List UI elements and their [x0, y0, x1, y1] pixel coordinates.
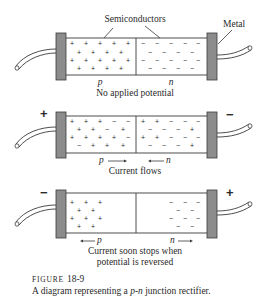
svg-text:−: −: [196, 134, 200, 141]
svg-text:−: −: [169, 199, 173, 206]
svg-text:−: −: [196, 215, 200, 222]
svg-text:+: +: [121, 142, 125, 149]
p-label: p: [97, 236, 102, 246]
svg-text:+: +: [98, 199, 102, 206]
left-wire: [15, 49, 56, 70]
svg-text:−: −: [196, 118, 200, 125]
svg-text:−: −: [77, 142, 81, 149]
svg-text:+: +: [105, 142, 109, 149]
svg-text:+: +: [77, 126, 81, 133]
svg-text:−: −: [176, 126, 180, 133]
svg-text:−: −: [162, 126, 166, 133]
svg-text:+: +: [190, 126, 194, 133]
svg-text:+: +: [70, 57, 74, 64]
svg-text:+: +: [84, 57, 88, 64]
panel-reverse-bias: +++ ++ +++ ++ −−− −− −−− −−: [15, 190, 252, 243]
semiconductors-label: Semiconductors: [104, 15, 165, 25]
svg-text:+: +: [190, 142, 194, 149]
metal-label: Metal: [223, 20, 245, 30]
svg-text:−: −: [183, 199, 187, 206]
svg-text:−: −: [169, 215, 173, 222]
figure-prefix: FIGURE: [32, 275, 64, 284]
svg-text:−: −: [169, 57, 173, 64]
svg-text:+: +: [91, 49, 95, 56]
svg-text:+: +: [141, 134, 145, 141]
svg-text:−: −: [196, 199, 200, 206]
svg-text:−: −: [176, 223, 180, 230]
svg-text:−: −: [169, 134, 173, 141]
svg-text:−: −: [105, 126, 109, 133]
figure-caption: A diagram representing a p-n junction re…: [32, 286, 211, 296]
svg-text:−: −: [183, 118, 187, 125]
svg-text:−: −: [169, 118, 173, 125]
right-metal-contact: [207, 33, 217, 80]
svg-text:+: +: [112, 57, 116, 64]
svg-text:+: +: [98, 118, 102, 125]
svg-text:+: +: [121, 126, 125, 133]
svg-text:+: +: [91, 65, 95, 72]
svg-text:−: −: [183, 40, 187, 47]
svg-text:+: +: [119, 65, 123, 72]
panel-3-caption-line1: Current soon stops when: [88, 247, 182, 257]
svg-text:−: −: [148, 142, 152, 149]
svg-text:+: +: [141, 118, 145, 125]
svg-text:+: +: [70, 134, 74, 141]
svg-text:+: +: [126, 57, 130, 64]
svg-text:+: +: [77, 49, 81, 56]
svg-text:−: −: [141, 57, 145, 64]
negative-terminal-sign: −: [40, 186, 48, 199]
svg-text:−: −: [169, 40, 173, 47]
svg-text:+: +: [77, 207, 81, 214]
svg-text:+: +: [98, 40, 102, 47]
panel-forward-bias: +++−− ++−+ ++++− −+++ ++−−− −−−+ ++−−− −…: [15, 112, 252, 163]
svg-text:−: −: [190, 223, 194, 230]
svg-text:+: +: [155, 118, 159, 125]
svg-text:−: −: [155, 40, 159, 47]
svg-text:−: −: [148, 65, 152, 72]
svg-text:−: −: [190, 49, 194, 56]
svg-text:−: −: [148, 49, 152, 56]
panel-2-caption: Current flows: [109, 167, 162, 177]
left-metal-contact: [56, 33, 66, 80]
figure-number-value: 18-9: [67, 274, 84, 284]
svg-text:+: +: [91, 223, 95, 230]
svg-text:+: +: [70, 199, 74, 206]
svg-text:−: −: [183, 134, 187, 141]
svg-text:+: +: [84, 40, 88, 47]
p-label: p: [99, 156, 104, 166]
svg-text:−: −: [196, 57, 200, 64]
svg-text:−: −: [183, 57, 187, 64]
svg-text:−: −: [155, 57, 159, 64]
svg-text:−: −: [190, 207, 194, 214]
svg-text:−: −: [148, 126, 152, 133]
svg-text:−: −: [176, 207, 180, 214]
svg-text:−: −: [176, 49, 180, 56]
svg-text:+: +: [98, 134, 102, 141]
svg-text:+: +: [77, 65, 81, 72]
svg-text:+: +: [77, 223, 81, 230]
svg-text:+: +: [98, 57, 102, 64]
svg-text:−: −: [112, 118, 116, 125]
p-label: p: [98, 78, 103, 88]
caption-prefix: A diagram representing a: [32, 286, 130, 296]
n-label: n: [169, 78, 174, 88]
svg-text:+: +: [84, 118, 88, 125]
svg-text:−: −: [196, 40, 200, 47]
svg-text:+: +: [105, 65, 109, 72]
n-label: n: [170, 236, 175, 246]
svg-text:+: +: [91, 142, 95, 149]
right-wire: [217, 46, 252, 59]
svg-text:−: −: [162, 65, 166, 72]
positive-terminal-sign: +: [40, 107, 48, 120]
svg-text:+: +: [84, 134, 88, 141]
svg-text:+: +: [126, 40, 130, 47]
svg-text:+: +: [98, 215, 102, 222]
svg-text:+: +: [91, 126, 95, 133]
figure-number: FIGURE18-9: [32, 274, 84, 284]
svg-text:+: +: [155, 134, 159, 141]
svg-text:+: +: [70, 215, 74, 222]
caption-suffix: junction rectifier.: [143, 286, 211, 296]
svg-text:−: −: [141, 40, 145, 47]
panel-1-caption: No applied potential: [96, 89, 174, 99]
svg-text:−: −: [176, 65, 180, 72]
